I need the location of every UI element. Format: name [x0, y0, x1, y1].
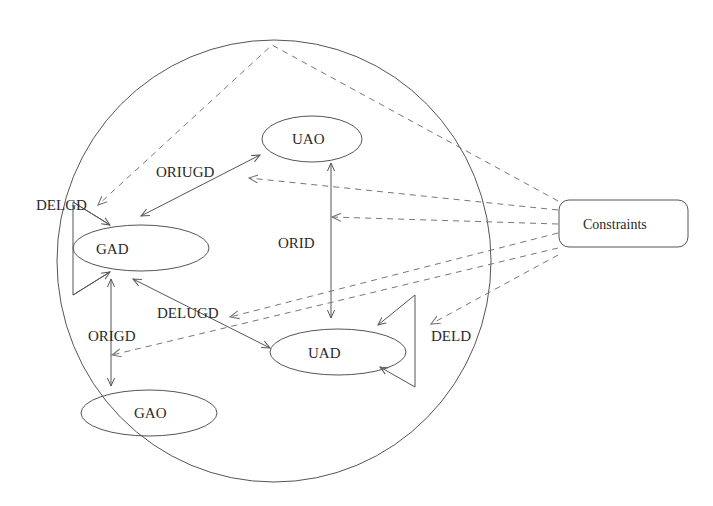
edge-oriugd-label: ORIUGD [156, 165, 214, 180]
node-constraints-label: Constraints [583, 218, 647, 232]
edge-deld-label: DELD [431, 329, 471, 344]
node-gao-label: GAO [134, 406, 167, 421]
node-uao-label: UAO [292, 132, 325, 147]
node-gad-ellipse [73, 225, 209, 271]
system-boundary-circle [57, 40, 491, 482]
node-uad-label: UAD [308, 346, 341, 361]
edge-delgd-label: DELGD [36, 198, 87, 213]
edge-delugd-label: DELUGD [157, 306, 219, 321]
node-gad-label: GAD [96, 242, 129, 257]
edge-orid-label: ORID [278, 236, 315, 251]
edge-origd-label: ORIGD [88, 329, 136, 344]
